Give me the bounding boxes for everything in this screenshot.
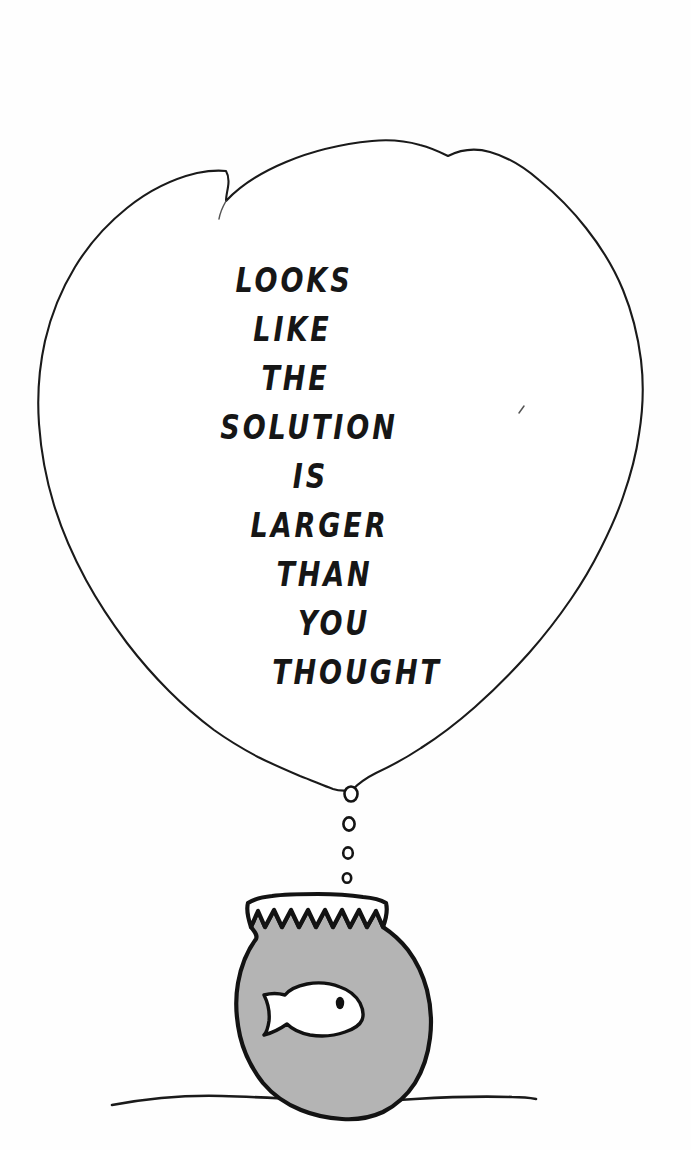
thought-cloud-outline: [38, 140, 642, 790]
thought-bubble-trail: [343, 787, 358, 883]
thought-bubble-2: [343, 817, 354, 830]
cartoon-illustration: [0, 0, 691, 1150]
thought-bubble-4: [343, 873, 351, 883]
fish-eye: [336, 997, 344, 1009]
thought-bubble-3: [343, 847, 353, 858]
thought-bubble-1: [345, 787, 358, 802]
fishbowl: [236, 894, 431, 1119]
fishbowl-rim: [247, 894, 387, 927]
cartoon-page: LOOKS LIKE THE SOLUTION IS LARGER THAN Y…: [0, 0, 691, 1150]
